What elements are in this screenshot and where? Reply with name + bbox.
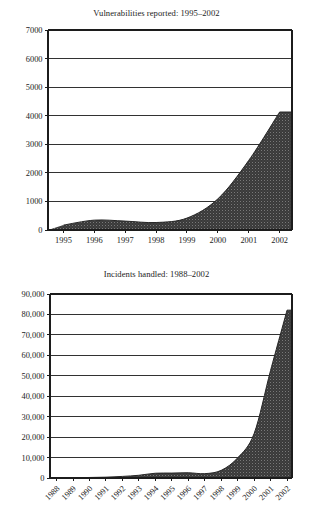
y-axis-tick-label: 0	[38, 226, 42, 235]
y-axis-tick-label: 10,000	[21, 454, 44, 463]
x-axis-tick-label: 1997	[117, 236, 134, 245]
x-axis-tick-label: 1988	[43, 484, 61, 502]
y-axis-tick-label: 3000	[26, 140, 43, 149]
plot-area-incidents: 010,00020,00030,00040,00050,00060,00070,…	[0, 262, 313, 529]
y-axis-tick-label: 2000	[26, 169, 43, 178]
plot-area-vulnerabilities: 0100020003000400050006000700019951996199…	[0, 0, 313, 262]
x-axis-tick-label: 1992	[109, 484, 127, 502]
x-axis-tick-label: 1999	[224, 484, 242, 502]
x-axis-tick-label: 1997	[191, 484, 209, 502]
y-axis-tick-label: 6000	[26, 55, 43, 64]
y-axis-tick-label: 30,000	[21, 413, 44, 422]
x-axis-tick-label: 1996	[175, 484, 193, 502]
figure-page: Vulnerabilities reported: 1995–2002 0100…	[0, 0, 313, 529]
x-axis-tick-label: 2000	[209, 236, 226, 245]
y-axis-tick-label: 20,000	[21, 433, 44, 442]
x-axis-tick-label: 1991	[93, 484, 111, 502]
x-axis-tick-label: 1996	[86, 236, 103, 245]
y-axis-tick-label: 50,000	[21, 372, 44, 381]
chart-vulnerabilities: Vulnerabilities reported: 1995–2002 0100…	[0, 0, 313, 262]
x-axis-tick-label: 2001	[257, 484, 275, 502]
x-axis-tick-label: 1999	[179, 236, 196, 245]
y-axis-tick-label: 4000	[26, 112, 43, 121]
x-axis-tick-label: 1995	[159, 484, 177, 502]
x-axis-tick-label: 2002	[271, 236, 288, 245]
y-axis-tick-label: 0	[40, 474, 44, 483]
x-axis-tick-label: 2000	[241, 484, 259, 502]
chart-incidents: Incidents handled: 1988–2002 010,00020,0…	[0, 262, 313, 529]
y-axis-tick-label: 7000	[26, 26, 43, 35]
x-axis-tick-label: 1994	[142, 483, 161, 502]
y-axis-tick-label: 90,000	[21, 290, 44, 299]
x-axis-tick-label: 1993	[126, 484, 144, 502]
y-axis-tick-label: 1000	[26, 197, 43, 206]
y-axis-tick-label: 40,000	[21, 392, 44, 401]
y-axis-tick-label: 60,000	[21, 351, 44, 360]
x-axis-tick-label: 1989	[60, 484, 78, 502]
x-axis-tick-label: 2002	[274, 484, 292, 502]
y-axis-tick-label: 70,000	[21, 331, 44, 340]
x-axis-tick-label: 1998	[148, 236, 165, 245]
y-axis-tick-label: 5000	[26, 83, 43, 92]
x-axis-tick-label: 1990	[76, 484, 94, 502]
y-axis-tick-label: 80,000	[21, 310, 44, 319]
x-axis-tick-label: 1998	[208, 484, 226, 502]
x-axis-tick-label: 1995	[55, 236, 72, 245]
x-axis-tick-label: 2001	[240, 236, 257, 245]
